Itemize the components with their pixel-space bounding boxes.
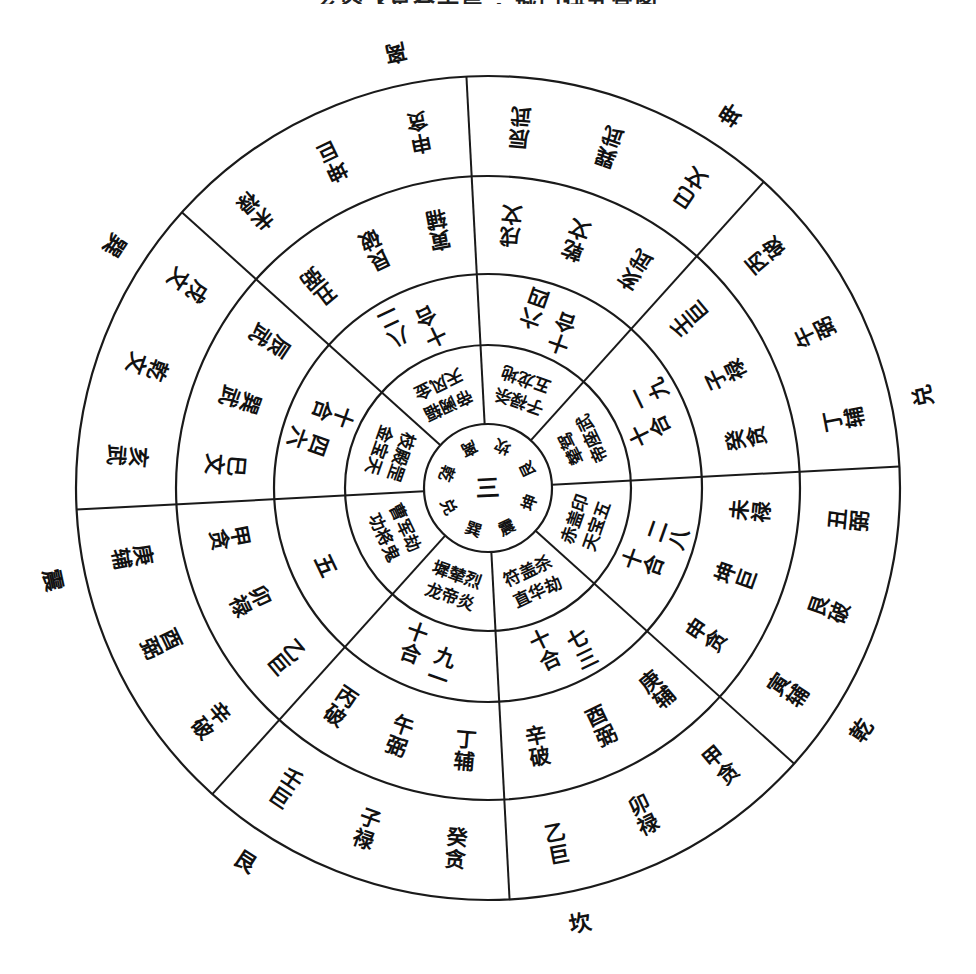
middle-ring-entry: 坤巨: [710, 558, 761, 594]
outer-ring-entry: 壬巨: [264, 763, 308, 814]
he-shi-label: 五: [309, 550, 342, 581]
middle-ring-entry-char: 破: [528, 743, 553, 772]
he-shi-label: 十合: [396, 618, 432, 670]
center-trigram-label: 兑: [436, 496, 460, 519]
middle-ring-entry-char: 弼: [382, 731, 410, 762]
outer-ring-entry: 癸贪: [443, 824, 470, 873]
center-trigram-label: 艮: [515, 457, 539, 481]
middle-ring-entry: 辛破: [523, 721, 553, 771]
outer-ring-entry: 坤巨: [313, 136, 352, 188]
he-shi-label-char: 四: [524, 282, 552, 313]
middle-ring-entry-char: 辅: [453, 748, 476, 775]
outer-ring-entry: 乾文: [121, 349, 173, 385]
outer-ring-entry: 申贪: [403, 108, 434, 158]
outer-ring-entry: 酉弼: [136, 624, 188, 663]
middle-ring-entry: 寅辅: [423, 205, 453, 255]
outer-ring-entry: 巽武: [591, 121, 627, 172]
he-shi-label: 十合: [624, 410, 676, 450]
he-shi-label: 二八: [642, 516, 694, 552]
sector-outer-label: 坤: [714, 98, 747, 132]
he-shi-label: 九一: [423, 642, 459, 694]
center-trigram-label: 坎: [492, 435, 513, 458]
middle-ring-entry: 戌文: [497, 202, 523, 251]
outer-ring-entry-char: 巨: [546, 840, 571, 869]
middle-ring-entry: 丑弼: [296, 262, 342, 312]
outer-ring-entry-char: 武: [509, 103, 532, 130]
center-labels: 三离坎艮坤震巽兑乾: [435, 435, 541, 541]
middle-ring-entry: 壬巨: [665, 296, 715, 342]
he-shi-label: 十合: [618, 543, 670, 579]
sector-divider-line: [491, 552, 509, 900]
outer-ring-entry: 戌文: [162, 264, 213, 309]
sector-divider-line: [77, 491, 425, 509]
center-number: 三: [475, 473, 500, 503]
middle-ring-entry: 巽武: [214, 382, 265, 418]
outer-ring-entry: 卯禄: [624, 789, 664, 841]
he-shi-label: 七三: [563, 623, 602, 675]
outer-ring-entry-char: 破: [824, 598, 855, 626]
he-shi-label: 六四: [517, 282, 553, 333]
middle-ring-entry: 未禄: [726, 497, 775, 523]
middle-ring-entry-char: 贪: [205, 528, 234, 554]
middle-ring-entry-char: 巨: [731, 565, 762, 593]
outer-ring-entry-char: 贪: [444, 846, 468, 873]
sector-divider-line: [466, 77, 484, 425]
sector-divider-line: [552, 466, 900, 484]
middle-ring-entry: 辰武: [245, 319, 296, 363]
middle-ring-entry-char: 贪: [743, 422, 772, 448]
middle-ring-entry-char: 禄: [748, 499, 775, 523]
outer-ring-entry-char: 武: [598, 121, 626, 152]
outer-ring-entry: 午弼: [789, 313, 841, 352]
outer-ring-entry: 寅辅: [763, 669, 814, 713]
outer-ring-entry: 丁辅: [818, 404, 868, 434]
middle-ring-entry: 癸贪: [721, 422, 772, 454]
outer-ring-entry-char: 弼: [846, 509, 873, 532]
middle-ring-entry-char: 辅: [423, 205, 448, 234]
outer-ring-entry-char: 武: [103, 444, 130, 467]
middle-ring-entry: 乾文: [557, 214, 593, 266]
outer-ring-entry: 丑弼: [824, 507, 873, 532]
center-trigram-label: 乾: [435, 463, 458, 484]
middle-ring-entry: 庚辅: [634, 665, 680, 715]
middle-ring-entry: 酉弼: [582, 700, 621, 752]
outer-ring-entry-char: 辅: [108, 546, 137, 571]
he-shi-label-char: 六: [282, 424, 313, 452]
he-shi-label: 十合: [410, 300, 450, 352]
outer-ring-entry: 辰武: [507, 103, 532, 152]
he-shi-label-char: 一: [424, 663, 452, 694]
middle-ring-entry: 子禄: [699, 354, 751, 394]
outer-ring-entry: 未禄: [231, 186, 278, 236]
sector-outer-label: 乾: [844, 714, 878, 747]
he-shi-label: 十合: [526, 624, 566, 676]
he-shi-label: 十合: [307, 396, 359, 432]
sector-outer-label: 坎: [567, 908, 594, 938]
middle-ring-entry: 午弼: [382, 710, 418, 761]
middle-ring-entry: 丁辅: [453, 726, 478, 775]
middle-ring-entry-char: 文: [202, 453, 229, 477]
outer-ring-entry: 丙破: [741, 232, 791, 278]
center-trigram-label: 震: [495, 515, 519, 540]
middle-ring-entry-char: 武: [214, 382, 245, 410]
he-shi-label: 十合: [543, 307, 579, 359]
center-trigram-label: 坤: [518, 492, 541, 513]
middle-ring-entry-char: 文: [499, 202, 523, 229]
outer-ring-entry: 子禄: [349, 804, 385, 856]
outer-ring-entry-char: 辅: [840, 404, 869, 429]
he-shi-label: 四六: [282, 424, 333, 460]
middle-ring-entry: 丙破: [319, 681, 363, 732]
middle-ring-entry: 艮破: [354, 225, 394, 277]
middle-ring-entry: 甲贪: [205, 523, 255, 554]
outer-ring-entry: 艮破: [804, 590, 856, 626]
center-trigram-label: 离: [458, 436, 481, 460]
outer-ring-entry: 乙巨: [542, 818, 572, 868]
outer-ring-entry: 辛破: [186, 698, 236, 744]
sector-outer-label: 震: [38, 567, 68, 595]
middle-ring-entry: 申贪: [681, 612, 732, 657]
outer-ring-entry: 巳文: [668, 162, 713, 213]
middle-ring-entry: 乙巨: [262, 634, 312, 680]
middle-ring-entry: 卯禄: [225, 582, 277, 622]
bagua-wheel-diagram: 离未禄坤巨申贪丑弼艮破寅辅八二十合天风金帝阙辐坤辰武巽武巳文戌文乾文亥武六四十合…: [0, 0, 976, 974]
outer-ring-entry-char: 贪: [403, 108, 429, 137]
outer-ring-entry: 甲贪: [698, 740, 745, 790]
sector-outer-label: 兑: [908, 382, 938, 409]
